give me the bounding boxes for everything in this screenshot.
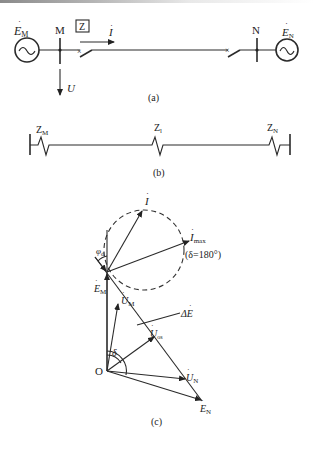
delta-180-note: (δ=180°) xyxy=(185,249,221,261)
svg-text:·: · xyxy=(146,188,149,198)
svg-text:·: · xyxy=(122,288,125,297)
phasor-dot: · xyxy=(18,16,21,26)
breaker-n-icon: × xyxy=(225,46,240,57)
impedance-zm-label: ZM xyxy=(36,124,49,137)
svg-text:·: · xyxy=(110,20,113,30)
generator-n-icon xyxy=(276,39,298,61)
svg-text:·: · xyxy=(191,224,194,234)
panel-b-impedance-diagram: ZM Zl ZN (b) xyxy=(30,122,290,179)
bus-m-label: M xyxy=(55,24,65,36)
impedance-chain xyxy=(30,137,290,155)
delta-e-leader xyxy=(137,313,180,325)
origin-label: O xyxy=(95,365,103,377)
breaker-m-icon: × xyxy=(77,47,92,57)
svg-text:·: · xyxy=(285,18,288,28)
caption-c: (c) xyxy=(151,416,162,428)
phasor-i-max xyxy=(107,241,189,272)
phasor-i xyxy=(107,211,142,272)
caption-a: (a) xyxy=(148,92,159,104)
power-system-figure: EM · M U Z I · × × N xyxy=(0,0,314,452)
svg-text:·: · xyxy=(187,365,190,374)
phasor-um xyxy=(107,304,118,371)
svg-text:·: · xyxy=(95,276,98,285)
label-delta: δ xyxy=(112,347,117,358)
bus-n-label: N xyxy=(252,24,260,36)
source-m-label: EM xyxy=(13,24,28,39)
label-phi-d: φd xyxy=(96,246,104,257)
caption-b: (b) xyxy=(153,167,165,179)
svg-text:×: × xyxy=(225,46,230,55)
relay-label: Z xyxy=(79,21,85,32)
source-n-label: EN xyxy=(281,26,294,40)
impedance-zn-label: ZN xyxy=(267,122,278,135)
voltage-label: U xyxy=(67,82,76,94)
panel-c-phasor-diagram: I · Imax · (δ=180°) φd EM · UM · ΔE · Uo… xyxy=(93,188,221,428)
current-locus-circle xyxy=(104,210,184,290)
svg-text:·: · xyxy=(151,321,154,330)
svg-text:·: · xyxy=(189,301,192,310)
panel-a-single-line-diagram: EM · M U Z I · × × N xyxy=(13,16,298,104)
impedance-zl-label: Zl xyxy=(154,122,162,135)
generator-m-icon xyxy=(15,38,39,62)
svg-text:·: · xyxy=(201,396,204,405)
svg-text:×: × xyxy=(77,47,82,56)
